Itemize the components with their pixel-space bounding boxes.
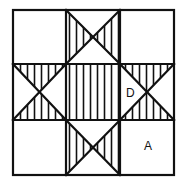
quilt-block-diagram — [0, 0, 182, 187]
top-right-triangle — [93, 10, 120, 64]
bottom-right-triangle — [93, 120, 120, 175]
left-bottom-triangle — [13, 92, 66, 120]
label-a: A — [144, 140, 152, 152]
left-top-triangle — [13, 64, 66, 92]
top-left-triangle — [66, 10, 93, 64]
bottom-left-triangle — [66, 120, 93, 175]
center-square — [66, 64, 120, 120]
label-d: D — [126, 87, 135, 99]
